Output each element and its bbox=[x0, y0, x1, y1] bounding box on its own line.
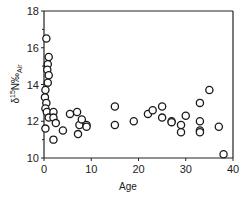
data-point bbox=[196, 118, 203, 125]
y-tick-label: 14 bbox=[27, 79, 39, 91]
data-point bbox=[45, 53, 52, 60]
x-axis-label: Age bbox=[119, 181, 137, 192]
y-tick-label: 18 bbox=[27, 5, 39, 17]
data-point bbox=[52, 119, 59, 126]
y-tick-label: 12 bbox=[27, 115, 39, 127]
data-point bbox=[43, 35, 50, 42]
data-point bbox=[73, 108, 80, 115]
y-axis-label: δ15N‰Air bbox=[9, 64, 23, 104]
data-point bbox=[111, 121, 118, 128]
data-point bbox=[196, 99, 203, 106]
data-point bbox=[206, 86, 213, 93]
data-point bbox=[45, 72, 52, 79]
data-point bbox=[83, 123, 90, 130]
data-point bbox=[130, 118, 137, 125]
data-point bbox=[168, 119, 175, 126]
y-tick-label: 16 bbox=[27, 42, 39, 54]
x-tick-label: 0 bbox=[41, 163, 47, 175]
data-point bbox=[59, 127, 66, 134]
data-point bbox=[111, 103, 118, 110]
data-point bbox=[177, 121, 184, 128]
scatter-chart: 1012141618 010203040 Age δ15N‰Air bbox=[0, 0, 242, 198]
data-point bbox=[182, 112, 189, 119]
data-point bbox=[44, 79, 51, 86]
data-point bbox=[149, 107, 156, 114]
data-point bbox=[42, 86, 49, 93]
x-tick-label: 10 bbox=[85, 163, 97, 175]
data-point bbox=[159, 114, 166, 121]
data-point bbox=[159, 103, 166, 110]
y-tick-label: 10 bbox=[27, 152, 39, 164]
data-point bbox=[66, 110, 73, 117]
plot-frame bbox=[44, 11, 233, 158]
x-tick-label: 40 bbox=[227, 163, 239, 175]
data-point bbox=[50, 136, 57, 143]
data-point bbox=[42, 125, 49, 132]
x-axis-ticks: 010203040 bbox=[41, 158, 239, 175]
x-tick-label: 20 bbox=[132, 163, 144, 175]
data-point bbox=[177, 129, 184, 136]
y-axis-ticks: 1012141618 bbox=[27, 5, 44, 164]
data-points bbox=[41, 35, 227, 158]
x-tick-label: 30 bbox=[180, 163, 192, 175]
data-point bbox=[74, 131, 81, 138]
data-point bbox=[215, 123, 222, 130]
data-point bbox=[196, 129, 203, 136]
data-point bbox=[220, 151, 227, 158]
